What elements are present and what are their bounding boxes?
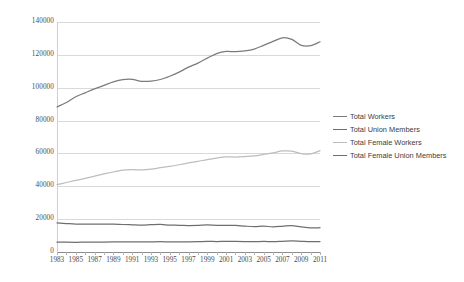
legend-label: Total Female Workers	[350, 138, 422, 147]
legend-label: Total Female Union Members	[350, 151, 447, 160]
series-line	[57, 223, 320, 228]
legend-item[interactable]: Total Female Workers	[333, 136, 461, 149]
legend-item[interactable]: Total Female Union Members	[333, 149, 461, 162]
legend-item[interactable]: Total Union Members	[333, 123, 461, 136]
chart-container: 020000400006000080000100000120000140000 …	[0, 0, 464, 282]
legend-label: Total Union Members	[350, 125, 420, 134]
legend-line-swatch-icon	[333, 142, 347, 143]
legend-line-swatch-icon	[333, 116, 347, 117]
legend-line-swatch-icon	[333, 129, 347, 130]
series-line	[57, 38, 320, 107]
legend-label: Total Workers	[350, 112, 395, 121]
legend-item[interactable]: Total Workers	[333, 110, 461, 123]
series-line	[57, 241, 320, 242]
legend-line-swatch-icon	[333, 155, 347, 156]
series-line	[57, 151, 320, 185]
chart-legend: Total WorkersTotal Union MembersTotal Fe…	[333, 110, 461, 162]
